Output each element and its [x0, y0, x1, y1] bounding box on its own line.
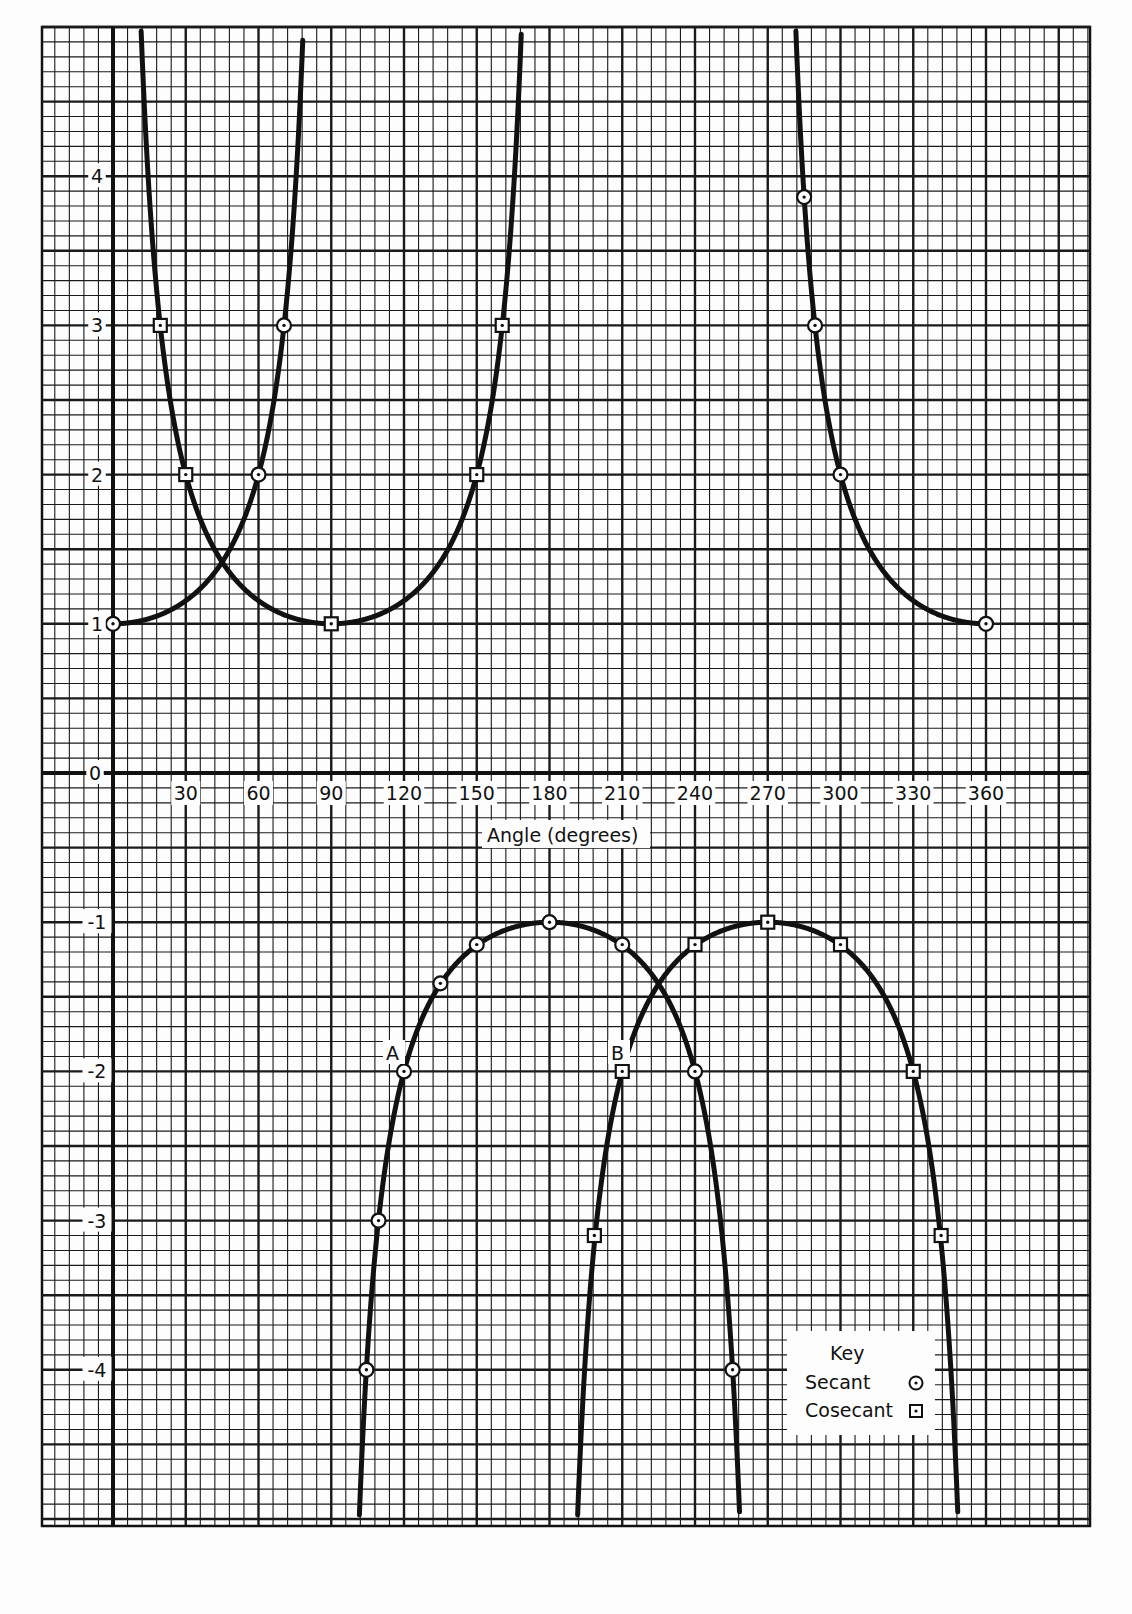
x-tick-label: 300	[822, 782, 858, 804]
legend-secant-label: Secant	[805, 1371, 870, 1393]
y-tick-label: -3	[88, 1210, 107, 1232]
x-tick-label: 330	[895, 782, 931, 804]
x-tick-label: 30	[174, 782, 198, 804]
x-tick-label: 240	[677, 782, 713, 804]
legend-title: Key	[830, 1342, 864, 1364]
x-tick-label: 180	[531, 782, 567, 804]
y-tick-label: -1	[88, 911, 107, 933]
y-tick-label: -4	[88, 1359, 107, 1381]
y-tick-label: 2	[91, 464, 103, 486]
y-tick-label: -2	[88, 1060, 107, 1082]
legend-cosecant-marker-icon	[910, 1405, 922, 1417]
graph-paper-grid	[42, 27, 1090, 1526]
x-tick-label: 210	[604, 782, 640, 804]
x-tick-label: 270	[750, 782, 786, 804]
x-tick-label: 90	[319, 782, 343, 804]
annotation-a: A	[386, 1042, 399, 1064]
x-tick-label: 150	[459, 782, 495, 804]
chart-svg: 30609012015018021024027030033036043210-1…	[0, 0, 1132, 1614]
annotation-b: B	[611, 1042, 624, 1064]
x-tick-label: 60	[246, 782, 270, 804]
legend: Key Secant Cosecant	[787, 1331, 935, 1435]
y-tick-label: 3	[91, 314, 103, 336]
legend-secant-marker-icon	[910, 1377, 923, 1390]
y-tick-label: 1	[91, 613, 103, 635]
legend-cosecant-label: Cosecant	[805, 1399, 893, 1421]
y-tick-label: 0	[89, 762, 101, 784]
y-tick-label: 4	[91, 165, 103, 187]
x-axis-title: Angle (degrees)	[487, 824, 638, 846]
x-tick-label: 120	[386, 782, 422, 804]
x-tick-label: 360	[968, 782, 1004, 804]
